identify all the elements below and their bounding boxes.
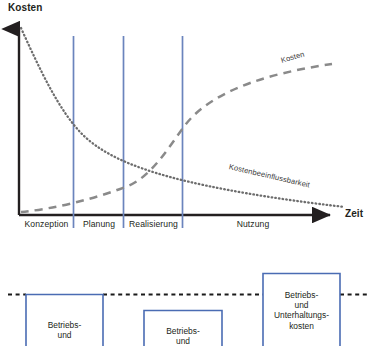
lower-box-label-1: Betriebs- und xyxy=(26,320,103,340)
lower-box-label-2: Betriebs- und xyxy=(144,326,222,346)
phase-label-planung: Planung xyxy=(74,219,124,229)
kosten-curve xyxy=(21,64,332,212)
x-axis-title: Zeit xyxy=(345,208,363,219)
lower-box-label-3: Betriebs- und Unterhaltungs- kosten xyxy=(263,290,340,331)
figure-root: Kosten Zeit Konzeption Planung Realisier… xyxy=(0,0,371,346)
y-axis-title: Kosten xyxy=(8,2,43,13)
phase-label-realisierung: Realisierung xyxy=(124,219,183,229)
phase-label-konzeption: Konzeption xyxy=(19,219,74,229)
phase-label-nutzung: Nutzung xyxy=(183,219,323,229)
